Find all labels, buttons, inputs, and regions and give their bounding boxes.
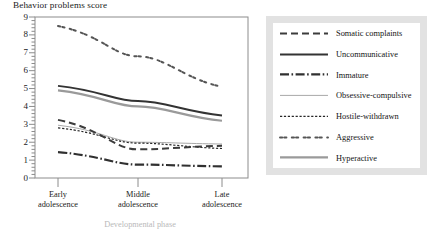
y-tick-label: 0 xyxy=(14,174,28,183)
legend-item-aggressive[interactable]: Aggressive xyxy=(273,127,420,148)
legend-item-immature[interactable]: Immature xyxy=(273,64,420,85)
legend-swatch-somatic-complaints xyxy=(279,23,329,44)
x-tick-label: Earlyadolescence xyxy=(38,190,78,209)
chart-legend: Somatic complaintsUncommunicativeImmatur… xyxy=(266,16,427,175)
y-tick-label: 4 xyxy=(14,102,28,111)
x-tick-label: Lateadolescence xyxy=(202,190,242,209)
x-axis-title: Developmental phase xyxy=(104,220,176,229)
legend-label-hostile-withdrawn: Hostile-withdrawn xyxy=(336,112,399,121)
legend-swatch-obsessive-compulsive xyxy=(279,85,329,106)
y-tick-label: 6 xyxy=(14,66,28,75)
legend-item-obsessive-compulsive[interactable]: Obsessive-compulsive xyxy=(273,85,420,106)
plot-area xyxy=(0,10,262,210)
legend-panel: Somatic complaintsUncommunicativeImmatur… xyxy=(273,23,420,168)
y-tick-label: 3 xyxy=(14,120,28,129)
legend-label-hyperactive: Hyperactive xyxy=(336,153,377,162)
chart-title: Behavior problems score xyxy=(13,0,107,10)
plot-svg xyxy=(0,10,262,210)
legend-label-uncommunicative: Uncommunicative xyxy=(336,50,398,59)
legend-item-uncommunicative[interactable]: Uncommunicative xyxy=(273,44,420,65)
behavior-problems-line-chart: Behavior problems score 0123456789 Early… xyxy=(0,0,430,232)
y-tick-label: 2 xyxy=(14,138,28,147)
legend-label-somatic-complaints: Somatic complaints xyxy=(336,29,402,38)
legend-swatch-hostile-withdrawn xyxy=(279,106,329,127)
legend-label-aggressive: Aggressive xyxy=(336,132,374,141)
legend-label-immature: Immature xyxy=(336,70,369,79)
legend-swatch-hyperactive xyxy=(279,147,329,168)
legend-swatch-immature xyxy=(279,64,329,85)
legend-item-hyperactive[interactable]: Hyperactive xyxy=(273,147,420,168)
y-tick-label: 8 xyxy=(14,30,28,39)
y-tick-label: 9 xyxy=(14,13,28,22)
x-tick-label: Middleadolescence xyxy=(118,190,158,209)
legend-label-obsessive-compulsive: Obsessive-compulsive xyxy=(336,91,411,100)
legend-swatch-uncommunicative xyxy=(279,44,329,65)
y-tick-label: 7 xyxy=(14,48,28,57)
legend-swatch-aggressive xyxy=(279,127,329,148)
legend-item-somatic-complaints[interactable]: Somatic complaints xyxy=(273,23,420,44)
legend-item-hostile-withdrawn[interactable]: Hostile-withdrawn xyxy=(273,106,420,127)
y-tick-label: 5 xyxy=(14,84,28,93)
y-tick-label: 1 xyxy=(14,156,28,165)
